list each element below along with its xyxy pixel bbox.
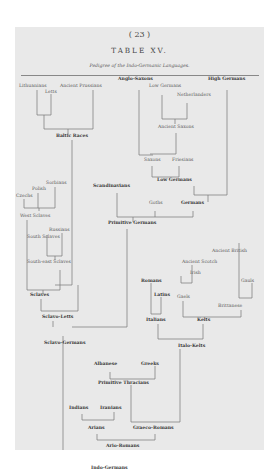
- node-ancient-prussians: Ancient Prussians: [60, 84, 102, 89]
- node-anglo-saxons: Anglo-Saxons: [118, 77, 153, 82]
- node-south-sclaves: South Sclaves: [27, 235, 60, 240]
- node-czechs: Czechs: [16, 194, 33, 199]
- node-albanese: Albanese: [94, 362, 117, 367]
- node-baltic-races: Baltic Races: [56, 134, 88, 139]
- node-netherlanders: Netherlanders: [177, 93, 211, 98]
- book-page: ( 23 ) TABLE XV. Pedigree of the Indo-Ge…: [15, 27, 264, 450]
- node-greeks: Greeks: [141, 362, 159, 367]
- node-graeco-romans: Graeco-Romans: [133, 426, 174, 431]
- node-kelts: Kelts: [197, 318, 210, 323]
- node-goths: Goths: [149, 201, 163, 206]
- node-germans: Germans: [181, 201, 204, 206]
- node-sclavo-germans: Sclavo-Germans: [44, 341, 86, 346]
- node-sclaves: Sclaves: [30, 293, 49, 298]
- node-sorbians: Sorbians: [46, 181, 67, 186]
- node-latins: Latins: [154, 293, 170, 298]
- node-low-germans-early: Low Germans: [149, 84, 181, 89]
- node-letts: Letts: [45, 90, 57, 95]
- node-ario-romans: Ario-Romans: [106, 444, 139, 449]
- node-romans: Romans: [141, 279, 162, 284]
- node-gaels: Gaels: [177, 295, 190, 300]
- node-high-germans: High Germans: [208, 77, 245, 82]
- node-ancient-scotch: Ancient Scotch: [182, 260, 217, 265]
- node-ancient-british: Ancient British: [212, 249, 247, 254]
- node-indo-germans: Indo-Germans: [91, 466, 128, 471]
- node-lithuanians: Lithuanians: [19, 84, 47, 89]
- node-russians: Russians: [49, 228, 70, 233]
- node-arians: Arians: [88, 426, 105, 431]
- node-iranians: Iranians: [100, 406, 122, 411]
- node-italians: Italians: [146, 318, 166, 323]
- node-brittanese: Brittanese: [218, 304, 242, 309]
- node-saxons: Saxons: [144, 158, 161, 163]
- node-polish: Polish: [32, 187, 46, 192]
- node-low-germans: Low Germans: [157, 178, 192, 183]
- node-italo-kelts: Italo-Kelts: [178, 344, 205, 349]
- node-primitive-germans: Primitive Germans: [108, 221, 156, 226]
- node-gauls: Gauls: [241, 279, 254, 284]
- node-south-east-sclaves: South-east Sclaves: [27, 260, 71, 265]
- node-west-sclaves: West Sclaves: [20, 214, 50, 219]
- node-irish: Irish: [190, 271, 201, 276]
- node-sclavo-letts: Sclavo-Letts: [42, 315, 73, 320]
- node-indians: Indians: [69, 406, 88, 411]
- node-primitive-thracians: Primitive Thracians: [98, 381, 149, 386]
- node-ancient-saxons: Ancient Saxons: [158, 125, 194, 130]
- node-scandinavians: Scandinavians: [93, 184, 130, 189]
- node-friesians: Friesians: [172, 158, 193, 163]
